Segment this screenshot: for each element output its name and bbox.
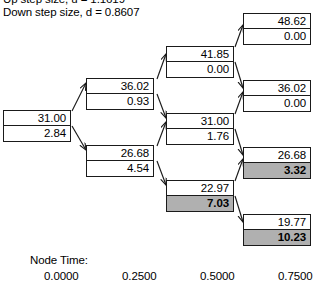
- node-time-label: Node Time:: [30, 254, 88, 266]
- axis-tick-label: 0.0000: [44, 270, 79, 282]
- axis-tick-label: 0.2500: [122, 270, 157, 282]
- node-option-value: 2.84: [4, 126, 70, 141]
- node-option-value: 3.32: [244, 163, 310, 178]
- axis-tick-label: 0.7500: [278, 270, 313, 282]
- node-option-value: 0.00: [244, 29, 310, 44]
- node-asset-price: 36.02: [87, 79, 153, 94]
- tree-node: 36.02 0.00: [243, 80, 311, 112]
- node-option-value: 0.93: [87, 94, 153, 109]
- tree-node: 48.62 0.00: [243, 13, 311, 45]
- tree-node: 26.68 3.32: [243, 147, 311, 179]
- node-asset-price: 19.77: [244, 215, 310, 230]
- tree-node: 26.68 4.54: [86, 145, 154, 177]
- axis-tick-label: 0.5000: [200, 270, 235, 282]
- node-asset-price: 48.62: [244, 14, 310, 29]
- node-asset-price: 26.68: [87, 146, 153, 161]
- node-option-value: 10.23: [244, 230, 310, 245]
- node-option-value: 1.76: [167, 129, 233, 144]
- node-asset-price: 26.68: [244, 148, 310, 163]
- node-option-value: 0.00: [244, 96, 310, 111]
- node-option-value: 4.54: [87, 161, 153, 176]
- node-asset-price: 31.00: [167, 114, 233, 129]
- binomial-tree-figure: Up step size, u = 1.1619 Down step size,…: [0, 0, 317, 292]
- node-asset-price: 41.85: [167, 47, 233, 62]
- tree-node: 19.77 10.23: [243, 214, 311, 246]
- tree-node: 31.00 2.84: [3, 110, 71, 142]
- tree-node: 41.85 0.00: [166, 46, 234, 78]
- node-option-value: 7.03: [167, 196, 233, 211]
- tree-node: 36.02 0.93: [86, 78, 154, 110]
- node-asset-price: 31.00: [4, 111, 70, 126]
- node-option-value: 0.00: [167, 62, 233, 77]
- node-asset-price: 36.02: [244, 81, 310, 96]
- node-asset-price: 22.97: [167, 181, 233, 196]
- tree-node: 31.00 1.76: [166, 113, 234, 145]
- tree-node: 22.97 7.03: [166, 180, 234, 212]
